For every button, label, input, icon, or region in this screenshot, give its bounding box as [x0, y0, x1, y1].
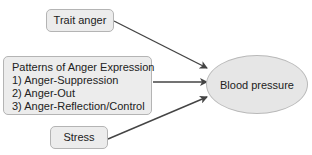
- patterns-node: Patterns of Anger Expression 1) Anger-Su…: [3, 56, 152, 115]
- stress-node: Stress: [50, 126, 108, 149]
- trait-anger-label: Trait anger: [54, 14, 107, 27]
- patterns-title: Patterns of Anger Expression: [12, 61, 151, 74]
- trait-anger-node: Trait anger: [46, 9, 114, 32]
- patterns-item: 1) Anger-Suppression: [12, 74, 151, 87]
- blood-pressure-node: Blood pressure: [206, 55, 308, 114]
- blood-pressure-label: Blood pressure: [220, 79, 294, 91]
- patterns-item: 3) Anger-Reflection/Control: [12, 100, 151, 113]
- stress-label: Stress: [63, 131, 94, 144]
- patterns-item: 2) Anger-Out: [12, 87, 151, 100]
